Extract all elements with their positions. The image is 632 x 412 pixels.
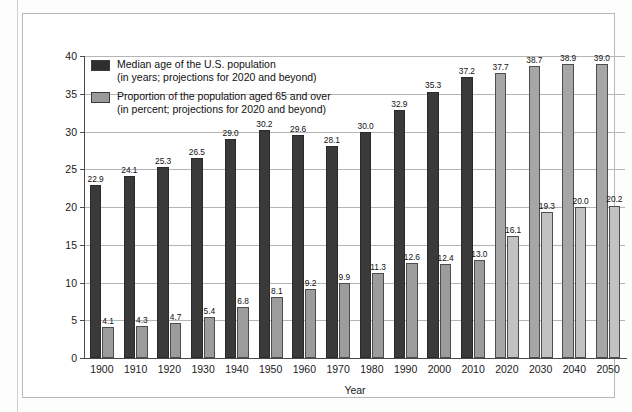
x-axis-tick-label: 1900 (90, 363, 113, 375)
x-axis-tick-label: 1980 (360, 363, 383, 375)
y-axis-tick-label: 35 (55, 88, 77, 100)
x-axis-tick-label: 1920 (158, 363, 181, 375)
x-axis-tick-label: 1910 (124, 363, 147, 375)
y-axis-tick-label: 25 (55, 163, 77, 175)
x-axis-tick-label: 1960 (293, 363, 316, 375)
x-axis-tick-label: 1970 (326, 363, 349, 375)
bar-value-label: 29.6 (290, 124, 306, 134)
bar[interactable] (596, 64, 608, 358)
x-axis-title: Year (85, 384, 625, 396)
bar[interactable] (372, 273, 384, 358)
x-axis-tick-label: 1990 (394, 363, 417, 375)
bar[interactable] (541, 212, 553, 358)
bar[interactable] (406, 263, 418, 358)
bar[interactable] (102, 327, 114, 358)
bar[interactable] (170, 323, 182, 358)
bar[interactable] (575, 207, 587, 358)
x-axis-tick-label: 2040 (563, 363, 586, 375)
bar-value-label: 24.1 (121, 165, 137, 175)
bar[interactable] (507, 236, 519, 358)
chart-legend: Median age of the U.S. population (in ye… (91, 58, 421, 122)
bar[interactable] (237, 307, 249, 358)
bar-value-label: 4.7 (170, 312, 182, 322)
legend-label-aged-65-over: Proportion of the population aged 65 and… (117, 90, 331, 115)
bar[interactable] (305, 289, 317, 358)
bar[interactable] (191, 158, 203, 358)
bar[interactable] (529, 66, 541, 358)
y-axis-tick-label: 30 (55, 126, 77, 138)
y-axis-tick-label: 0 (55, 352, 77, 364)
bar[interactable] (562, 64, 574, 358)
bar-value-label: 9.9 (339, 272, 351, 282)
bar-value-label: 12.4 (437, 253, 453, 263)
bar[interactable] (326, 146, 338, 358)
x-axis-tick-label: 2030 (529, 363, 552, 375)
bar-group: 38.719.3 (524, 56, 558, 358)
bar-value-label: 29.0 (222, 128, 238, 138)
legend-item-median-age: Median age of the U.S. population (in ye… (91, 58, 421, 83)
legend-swatch-median-age (91, 60, 110, 71)
x-axis-labels: 1900191019201930194019501960197019801990… (85, 363, 625, 379)
x-axis-tick-label: 2050 (596, 363, 619, 375)
chart-card: 0510152025303540 22.94.124.14.325.34.726… (22, 13, 615, 398)
x-axis-tick-label: 2020 (495, 363, 518, 375)
bar[interactable] (271, 297, 283, 358)
bar-value-label: 37.2 (459, 66, 475, 76)
legend-line2: (in percent; projections for 2020 and be… (117, 103, 326, 115)
bar[interactable] (157, 167, 169, 358)
bar-group: 35.312.4 (423, 56, 457, 358)
y-axis-tick-label: 5 (55, 314, 77, 326)
x-axis-tick-label: 2010 (461, 363, 484, 375)
y-axis-labels: 0510152025303540 (53, 56, 77, 358)
bar[interactable] (124, 176, 136, 358)
chart-page: 0510152025303540 22.94.124.14.325.34.726… (0, 0, 632, 412)
bar[interactable] (394, 110, 406, 358)
bar[interactable] (339, 283, 351, 358)
bar-group: 39.020.2 (591, 56, 625, 358)
bar[interactable] (440, 264, 452, 358)
page-edge-rule (17, 0, 18, 412)
bar-value-label: 38.9 (560, 53, 576, 63)
legend-swatch-aged-65-over (91, 92, 110, 103)
bar-value-label: 19.3 (539, 201, 555, 211)
y-axis-tick-label: 20 (55, 201, 77, 213)
bar[interactable] (474, 260, 486, 358)
bar-value-label: 11.3 (370, 262, 386, 272)
x-axis-tick-label: 1950 (259, 363, 282, 375)
bar-value-label: 16.1 (505, 225, 521, 235)
bar-value-label: 38.7 (526, 55, 542, 65)
bar[interactable] (204, 317, 216, 358)
bar[interactable] (461, 77, 473, 358)
x-axis-line (84, 358, 627, 359)
bar-group: 37.213.0 (456, 56, 490, 358)
bar-value-label: 26.5 (189, 147, 205, 157)
x-axis-tick-label: 1940 (225, 363, 248, 375)
bar[interactable] (225, 139, 237, 358)
legend-line2: (in years; projections for 2020 and beyo… (117, 71, 317, 83)
legend-line1: Proportion of the population aged 65 and… (117, 90, 331, 102)
bar[interactable] (292, 135, 304, 358)
x-axis-tick-label: 1930 (191, 363, 214, 375)
bar[interactable] (495, 73, 507, 358)
bar-value-label: 4.1 (102, 316, 114, 326)
y-axis-tick (80, 358, 85, 359)
x-axis-tick-label: 2000 (428, 363, 451, 375)
bar-value-label: 20.0 (572, 196, 588, 206)
bar-value-label: 8.1 (271, 286, 283, 296)
bar[interactable] (90, 185, 102, 358)
bar-value-label: 25.3 (155, 156, 171, 166)
bar[interactable] (136, 326, 148, 358)
legend-line1: Median age of the U.S. population (117, 58, 276, 70)
bar-value-label: 9.2 (305, 278, 317, 288)
legend-label-median-age: Median age of the U.S. population (in ye… (117, 58, 317, 83)
y-axis-tick-label: 15 (55, 239, 77, 251)
bar-group: 37.716.1 (490, 56, 524, 358)
bar-value-label: 28.1 (324, 135, 340, 145)
bar[interactable] (360, 132, 372, 359)
bar-value-label: 4.3 (136, 315, 148, 325)
bar[interactable] (609, 206, 621, 359)
bar[interactable] (427, 92, 439, 359)
bar[interactable] (259, 130, 271, 358)
bar-value-label: 6.8 (237, 296, 249, 306)
y-axis-tick-label: 10 (55, 277, 77, 289)
